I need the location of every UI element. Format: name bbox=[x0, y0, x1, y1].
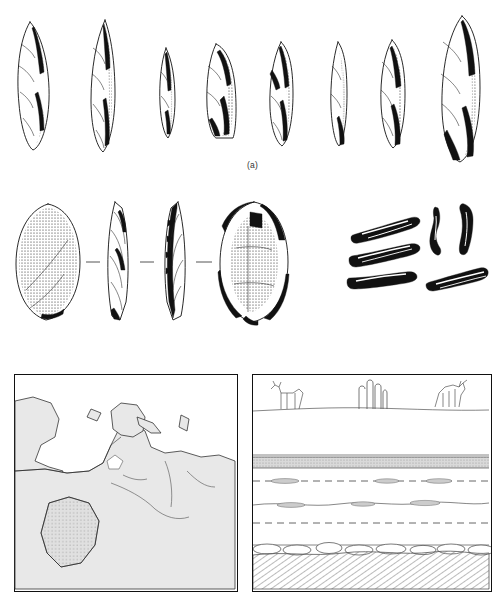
plant-cactus bbox=[359, 380, 387, 409]
figure-root: (a) bbox=[0, 0, 504, 601]
bone-fragment-1 bbox=[351, 217, 420, 243]
artifact-blade-6 bbox=[331, 42, 347, 146]
biface-view-4 bbox=[218, 202, 289, 325]
animal-goat-right bbox=[435, 380, 467, 407]
bone-fragment-5 bbox=[459, 204, 473, 255]
map-drawing bbox=[15, 375, 235, 589]
panel-a-lithic-blades: (a) bbox=[0, 0, 504, 180]
panel-b-biface-views: (b) bbox=[0, 190, 340, 350]
panel-d-map: Aruba Curaçao Bonaire Caribbean Sea Taim… bbox=[14, 374, 238, 592]
biface-view-1 bbox=[16, 204, 80, 320]
bone-fragment-3 bbox=[347, 272, 417, 289]
animal-goat-left bbox=[271, 381, 303, 409]
panel-a-drawing bbox=[0, 0, 504, 160]
artifact-blade-8 bbox=[441, 16, 480, 162]
strat-drawing bbox=[253, 375, 489, 589]
artifact-blade-3 bbox=[160, 48, 175, 138]
biface-view-3 bbox=[165, 202, 185, 320]
artifact-blade-2 bbox=[91, 20, 115, 152]
artifact-blade-1 bbox=[18, 22, 49, 150]
panel-c-drawing bbox=[340, 190, 504, 300]
panel-a-label: (a) bbox=[247, 160, 258, 170]
miocene-bedrock bbox=[253, 551, 489, 589]
bone-fragment-4 bbox=[430, 207, 441, 255]
paleosol-lenses-lower bbox=[277, 500, 440, 507]
artifact-blade-5 bbox=[270, 42, 293, 146]
panel-e-stratigraphy: (modern surface) UNIT IV: yellowish-brow… bbox=[252, 374, 492, 592]
artifact-blade-7 bbox=[381, 40, 405, 148]
artifact-blade-4 bbox=[207, 44, 236, 138]
panel-c-bone-tools: 0 2 4 6 8 cm (c) bbox=[340, 190, 504, 350]
panel-b-drawing bbox=[0, 190, 340, 330]
biface-view-2 bbox=[108, 202, 128, 320]
bone-fragment-2 bbox=[349, 244, 420, 267]
unit-III-band bbox=[253, 457, 489, 468]
bone-fragment-6 bbox=[426, 268, 488, 291]
